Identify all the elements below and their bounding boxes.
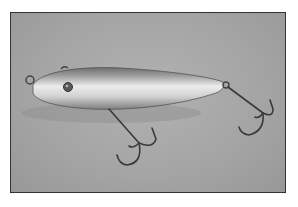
line-tie-icon xyxy=(26,76,34,84)
fishing-lure-illustration xyxy=(11,13,286,193)
lure-photo: Silver torpedo-shaped fishing lure with … xyxy=(10,12,286,193)
rear-treble-hook-icon xyxy=(228,87,273,135)
lure-body xyxy=(33,68,224,110)
eye-icon xyxy=(64,83,73,92)
